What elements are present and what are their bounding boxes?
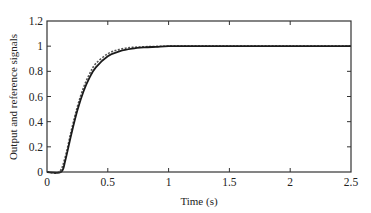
y-tick-label: 1 [37,40,43,52]
reference-signal-line [47,46,351,173]
y-tick-label: 0.8 [29,65,44,77]
x-tick-label: 1 [166,176,172,188]
y-tick-label: 0.2 [29,141,44,153]
x-tick-label: 1.5 [222,176,237,188]
x-tick-labels: 00.511.522.5 [44,176,358,188]
y-tick-label: 0.4 [29,116,44,128]
plot-frame [47,21,351,172]
y-axis-label: Output and reference signals [7,34,19,160]
x-tick-label: 2.5 [344,176,359,188]
axis-ticks [47,21,351,172]
step-response-chart: 00.511.522.5 00.20.40.60.811.2 Time (s) … [0,0,371,213]
plot-curves [47,46,351,173]
x-tick-label: 0 [44,176,50,188]
output-signal-line [47,46,351,173]
x-axis-label: Time (s) [180,195,218,208]
y-tick-label: 0 [37,166,43,178]
y-tick-labels: 00.20.40.60.811.2 [29,15,44,178]
x-tick-label: 2 [287,176,293,188]
x-tick-label: 0.5 [101,176,116,188]
y-tick-label: 1.2 [29,15,44,27]
y-tick-label: 0.6 [29,91,44,103]
